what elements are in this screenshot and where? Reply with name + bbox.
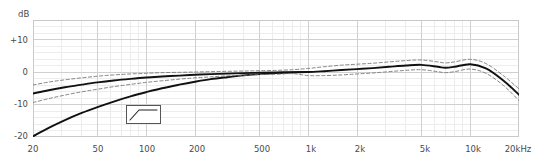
frequency-response-chart: dB +10 0 -10 -20 20 50 100 200 500 1k 2k…	[0, 0, 538, 164]
x-tick-label-500: 500	[242, 144, 282, 154]
y-tick-label-minus10: -10	[0, 99, 28, 109]
x-tick-label-100: 100	[127, 144, 167, 154]
x-tick-label-1k: 1k	[291, 144, 331, 154]
low-cut-filter-glyph	[127, 106, 160, 123]
x-tick-label-2k: 2k	[340, 144, 380, 154]
x-tick-label-5k: 5k	[405, 144, 445, 154]
y-axis-unit-label: dB	[18, 9, 30, 19]
grid-minor-lines	[33, 20, 519, 137]
plot-area	[33, 20, 519, 137]
y-tick-label-minus20: -20	[0, 131, 28, 141]
x-tick-label-20kHz: 20kHz	[498, 144, 538, 154]
curve-response-flat	[33, 64, 519, 95]
x-tick-label-20: 20	[13, 144, 53, 154]
x-tick-label-10k: 10k	[453, 144, 493, 154]
x-tick-label-200: 200	[177, 144, 217, 154]
y-tick-label-plus10: +10	[0, 35, 28, 45]
plot-canvas	[33, 20, 519, 137]
x-tick-label-50: 50	[78, 144, 118, 154]
curve-tolerance-upper	[33, 59, 519, 89]
y-tick-label-zero: 0	[0, 67, 28, 77]
low-cut-filter-icon[interactable]	[126, 105, 161, 124]
